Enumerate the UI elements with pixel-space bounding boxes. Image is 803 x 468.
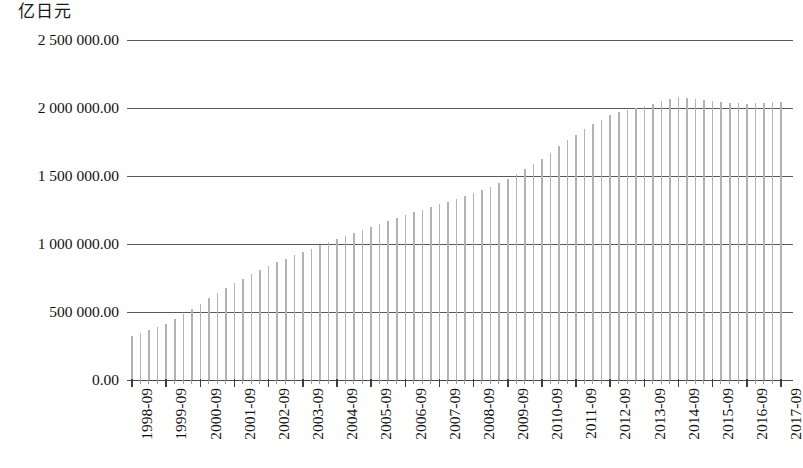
x-axis-minor-tick [481,379,482,384]
x-axis-tick-label: 2012-09 [609,388,625,440]
bar [644,106,646,380]
bar [755,103,757,380]
x-axis-major-tick [746,379,748,387]
bar [533,164,535,380]
x-axis-tick-label: 2003-09 [302,388,318,440]
x-axis-minor-tick [183,379,184,384]
x-axis-major-tick [644,379,646,387]
chart-page: 亿日元 0.00500 000.001 000 000.001 500 000.… [0,0,803,468]
x-axis-major-tick [268,379,270,387]
bar [140,333,142,380]
x-axis-tick-label: 2016-09 [746,388,762,440]
x-axis-minor-tick [319,379,320,384]
x-axis-minor-tick [251,379,252,384]
bar [746,104,748,380]
x-axis-minor-tick [533,379,534,384]
x-axis-major-tick [234,379,236,387]
x-axis-minor-tick [422,379,423,384]
x-axis-minor-tick [584,379,585,384]
bar [396,218,398,380]
bar [200,304,202,380]
bar [592,124,594,380]
bar [285,259,287,380]
x-axis-major-tick [131,379,133,387]
bar [627,110,629,380]
y-axis-unit-caption: 亿日元 [18,1,72,23]
x-axis-minor-tick [396,379,397,384]
bar [507,179,509,380]
bar [370,227,372,380]
bar [618,112,620,380]
x-axis-minor-tick [627,379,628,384]
bar [516,174,518,380]
x-axis-minor-tick [703,379,704,384]
bar [174,319,176,380]
x-axis-tick-label: 2008-09 [473,388,489,440]
bar [319,245,321,380]
bar [669,99,671,380]
y-axis-tick-label: 1 000 000.00 [0,236,119,252]
x-axis-minor-tick [456,379,457,384]
plot-area [127,40,793,380]
x-axis-minor-tick [601,379,602,384]
x-axis-tick-label: 2017-09 [780,388,796,440]
x-axis-minor-tick [217,379,218,384]
x-axis-minor-tick [652,379,653,384]
x-axis-minor-tick [276,379,277,384]
x-axis-tick-label: 2009-09 [507,388,523,440]
y-axis-tick-label: 0.00 [0,372,119,388]
bar [703,100,705,380]
x-axis-tick-label: 2007-09 [439,388,455,440]
bar [609,115,611,380]
x-axis-minor-tick [345,379,346,384]
bar [362,230,364,380]
x-axis-minor-tick [772,379,773,384]
x-axis-minor-tick [550,379,551,384]
bar [601,120,603,380]
bar [191,309,193,380]
bar [490,187,492,380]
x-axis-minor-tick [592,379,593,384]
y-axis-tick-label: 2 000 000.00 [0,100,119,116]
x-axis-minor-tick [498,379,499,384]
x-axis-minor-tick [661,379,662,384]
x-axis-minor-tick [353,379,354,384]
x-axis-minor-tick [430,379,431,384]
bar [550,153,552,380]
x-axis-minor-tick [242,379,243,384]
x-axis-major-tick [507,379,509,387]
x-axis-minor-tick [567,379,568,384]
x-axis-tick-label: 2000-09 [200,388,216,440]
bar [558,146,560,380]
bar [422,210,424,380]
bar [208,298,210,380]
x-axis-minor-tick [763,379,764,384]
x-axis-ticks [127,379,793,388]
bar [439,204,441,380]
bar [387,221,389,380]
bar [661,101,663,380]
x-axis-minor-tick [755,379,756,384]
x-axis-tick-labels: 1998-091999-092000-092001-092002-092003-… [127,388,793,468]
bar [473,193,475,380]
y-axis-tick-label: 1 500 000.00 [0,168,119,184]
x-axis-major-tick [370,379,372,387]
x-axis-tick-label: 2002-09 [268,388,284,440]
bar [780,102,782,380]
x-axis-major-tick [439,379,441,387]
x-axis-minor-tick [490,379,491,384]
x-axis-minor-tick [618,379,619,384]
bar [165,324,167,380]
x-axis-minor-tick [379,379,380,384]
bar [652,104,654,380]
x-axis-tick-label: 2013-09 [644,388,660,440]
y-axis-tick-label: 500 000.00 [0,304,119,320]
x-axis-tick-label: 2011-09 [575,388,591,439]
x-axis-major-tick [165,379,167,387]
bar [217,293,219,380]
bar [336,239,338,380]
x-axis-major-tick [473,379,475,387]
bar [225,288,227,380]
x-axis-minor-tick [259,379,260,384]
bar [575,135,577,380]
